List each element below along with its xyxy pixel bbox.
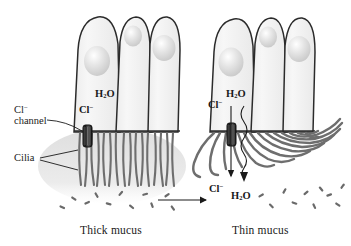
label-cilia-text: Cilia (14, 152, 34, 163)
nucleus (288, 36, 311, 62)
label-cl-channel-ion: Cl (14, 104, 24, 115)
transition-arrow (158, 197, 207, 204)
label-water-left: H2O (95, 88, 115, 99)
right-panel-group (193, 18, 345, 209)
cl-channel-left (83, 125, 92, 147)
nucleus (84, 46, 110, 76)
label-chloride-right-bottom: Cl− (209, 183, 223, 194)
cell-right-3 (283, 18, 315, 132)
label-cl-channel: Cl− channel (14, 104, 47, 127)
nucleus (259, 27, 277, 48)
diagram-graphics (0, 0, 351, 246)
label-chloride-right-top: Cl− (208, 99, 222, 110)
particles-thin (258, 183, 345, 209)
nucleus (219, 48, 244, 77)
label-chloride-left: Cl− (79, 104, 93, 115)
cell-left-3 (148, 17, 180, 132)
label-water-right-top: H2O (226, 88, 246, 99)
nucleus (124, 26, 142, 47)
label-water-right-bottom: H2O (231, 190, 251, 201)
nucleus (153, 35, 176, 61)
thick-mucus-layer (38, 128, 186, 204)
caption-thick-mucus: Thick mucus (80, 224, 142, 236)
caption-thin-mucus: Thin mucus (232, 224, 289, 236)
label-cilia: Cilia (14, 152, 34, 163)
figure-canvas: Cl− channel Cilia H2O Cl− H2O Cl− Cl− H2… (0, 0, 351, 246)
label-cl-channel-charge: − (24, 104, 28, 111)
label-cl-channel-word: channel (14, 115, 47, 126)
left-panel-group (38, 17, 186, 211)
